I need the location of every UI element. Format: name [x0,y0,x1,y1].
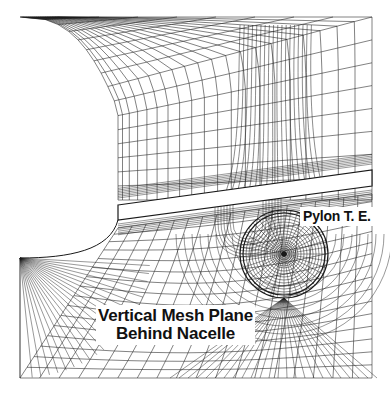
pylon-te-text: Pylon T. E. [303,208,371,224]
mesh-plane-line1: Vertical Mesh Plane [98,307,253,325]
mesh-plane-label: Vertical Mesh Plane Behind Nacelle [96,305,255,345]
pylon-te-label: Pylon T. E. [300,207,374,226]
mesh-plane-line2: Behind Nacelle [98,325,253,343]
